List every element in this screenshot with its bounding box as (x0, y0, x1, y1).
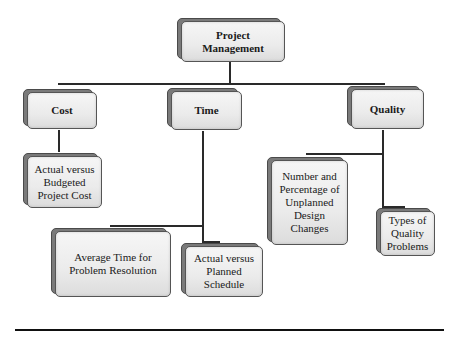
node-label: Number and Percentage of Unplanned Desig… (279, 170, 339, 235)
node-project-management: Project Management (181, 21, 285, 62)
diagram-canvas: Project Management Cost Time Quality Act… (0, 0, 457, 338)
bottom-rule (15, 329, 444, 331)
node-label: Cost (51, 104, 72, 117)
connector-quality-down (382, 130, 384, 208)
node-time: Time (171, 91, 242, 130)
node-label: Project Management (202, 29, 264, 55)
node-quality: Quality (351, 89, 424, 129)
connector-quality-bus (306, 153, 383, 155)
node-quality-problems: Types of Quality Problems (380, 211, 435, 256)
node-label: Types of Quality Problems (387, 214, 429, 253)
node-label: Time (194, 104, 218, 117)
connector-top-bus (58, 83, 385, 85)
connector-root-down (229, 62, 231, 84)
node-label: Actual versus Planned Schedule (194, 252, 254, 291)
node-cost: Cost (27, 92, 97, 129)
connector-cost-down (58, 130, 60, 152)
node-actual-vs-planned: Actual versus Planned Schedule (185, 246, 263, 297)
connector-time-bus (110, 225, 203, 227)
node-label: Quality (370, 103, 405, 116)
node-label: Actual versus Budgeted Project Cost (34, 163, 94, 202)
node-average-time: Average Time for Problem Resolution (55, 231, 171, 297)
node-unplanned-changes: Number and Percentage of Unplanned Desig… (271, 160, 348, 245)
node-actual-vs-budgeted: Actual versus Budgeted Project Cost (27, 156, 102, 208)
node-label: Average Time for Problem Resolution (69, 251, 157, 277)
